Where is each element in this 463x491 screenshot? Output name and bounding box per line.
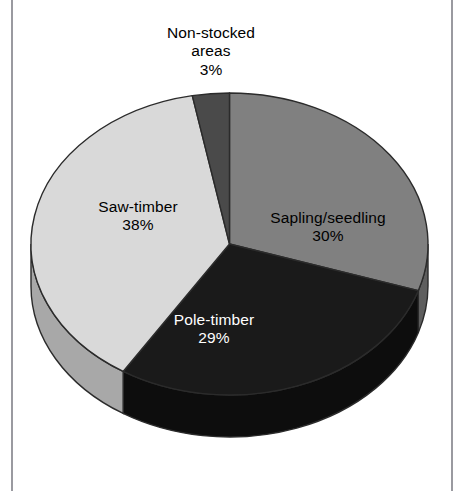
slice-value-sapling-seedling: 30% <box>252 227 404 245</box>
slice-label-non-stocked-areas-line1: Non-stocked <box>118 24 304 42</box>
slice-label-saw-timber: Saw-timber 38% <box>62 198 214 235</box>
slice-label-non-stocked-areas-line2: areas <box>118 42 304 60</box>
slice-label-saw-timber-line1: Saw-timber <box>62 198 214 216</box>
slice-label-pole-timber: Pole-timber 29% <box>134 311 294 348</box>
slice-label-sapling-seedling-line1: Sapling/seedling <box>252 209 404 227</box>
slice-value-pole-timber: 29% <box>134 329 294 347</box>
slice-value-saw-timber: 38% <box>62 216 214 234</box>
slice-label-sapling-seedling: Sapling/seedling 30% <box>252 209 404 246</box>
figure-panel: Non-stocked areas 3% Sapling/seedling 30… <box>0 0 463 491</box>
slice-label-non-stocked-areas: Non-stocked areas 3% <box>118 24 304 79</box>
pie-chart: Non-stocked areas 3% Sapling/seedling 30… <box>0 0 463 491</box>
slice-value-non-stocked-areas: 3% <box>118 61 304 79</box>
slice-label-pole-timber-line1: Pole-timber <box>134 311 294 329</box>
